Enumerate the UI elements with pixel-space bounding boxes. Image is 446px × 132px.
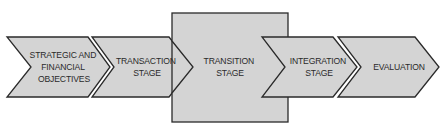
label-integration-line1: INTEGRATION: [290, 56, 346, 66]
label-strategic-line1: STRATEGIC AND: [30, 50, 97, 60]
label-evaluation-line1: EVALUATION: [373, 62, 425, 72]
label-strategic-line3: OBJECTIVES: [38, 74, 90, 84]
label-transition-line1: TRANSITION: [204, 56, 255, 66]
process-flow-diagram: STRATEGIC AND FINANCIAL OBJECTIVES TRANS…: [0, 0, 446, 132]
label-strategic-line2: FINANCIAL: [41, 62, 85, 72]
label-integration-line2: STAGE: [305, 68, 333, 78]
label-transition-line2: STAGE: [216, 68, 244, 78]
label-transaction-line1: TRANSACTION: [116, 56, 176, 66]
label-evaluation: EVALUATION: [373, 62, 425, 72]
label-transaction-line2: STAGE: [133, 68, 161, 78]
